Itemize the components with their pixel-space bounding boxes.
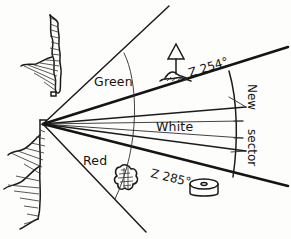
beacon-tower-icon <box>160 44 191 81</box>
sector-light-diagram: Green White Red Z 254° Z 285° New sector <box>0 0 291 239</box>
ray-white-red-divider <box>43 124 246 151</box>
label-bearing-254: Z 254° <box>187 55 230 80</box>
label-new-sector-line2: sector <box>245 129 259 166</box>
label-new-sector-line1: New <box>245 84 259 110</box>
ray-red-lower-limit <box>43 124 146 232</box>
label-red-sector: Red <box>83 153 107 168</box>
coastline-hatched-lower <box>4 120 46 229</box>
label-white-sector: White <box>156 119 193 134</box>
ray-green-upper-limit <box>43 6 169 124</box>
rock-shoal-icon <box>114 165 137 190</box>
coastline-hatched-upper <box>21 15 61 96</box>
diagram-canvas: Green White Red Z 254° Z 285° New sector <box>0 0 291 239</box>
label-green-sector: Green <box>94 74 133 89</box>
new-sector-dividers <box>229 97 246 152</box>
arc-outer-new-sector <box>229 71 236 177</box>
buoy-icon <box>190 179 218 196</box>
label-bearing-285: Z 285° <box>149 166 192 189</box>
